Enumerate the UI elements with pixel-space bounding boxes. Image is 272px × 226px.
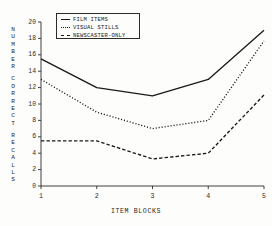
series-line-film-items [41,30,264,96]
plot-area [0,0,272,226]
series-line-visual-stills [41,41,264,129]
chart-figure: NUMBERCORRECTRECALLS 02468101214161820 1… [0,0,272,226]
series-line-newscaster-only [41,95,264,159]
